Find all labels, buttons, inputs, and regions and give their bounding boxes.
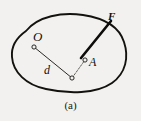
point-marker-o — [32, 45, 36, 49]
label-force-f: F — [108, 11, 115, 22]
label-point-a: A — [89, 56, 96, 68]
moment-arm-line — [34, 47, 72, 78]
force-vector-line — [81, 21, 111, 58]
figure-container: O d A F (a) — [0, 0, 141, 121]
line-of-action-dashed — [72, 60, 85, 78]
rigid-body-outline — [12, 14, 126, 92]
label-pivot-o: O — [33, 30, 42, 43]
figure-caption: (a) — [0, 99, 141, 111]
label-moment-arm-d: d — [44, 64, 50, 76]
point-marker-a — [83, 58, 87, 62]
point-marker-perpendicular-foot — [70, 76, 74, 80]
